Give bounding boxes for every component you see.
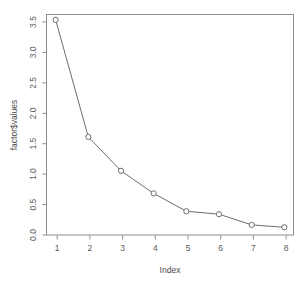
y-tick-label-1: 0.5: [28, 198, 38, 210]
y-tick-label-5: 2.5: [28, 77, 38, 89]
plot-background: [0, 0, 303, 286]
x-tick-label-1: 2: [88, 243, 93, 253]
x-tick-label-4: 5: [186, 243, 191, 253]
x-tick-label-3: 4: [153, 243, 158, 253]
plot-canvas: 0.0 0.5 1.0 1.5 2.0 2.5 3.0 3.5 factor$v…: [0, 0, 303, 286]
y-tick-label-0: 0.0: [28, 229, 38, 241]
data-point: [282, 225, 287, 230]
y-tick-label-4: 2.0: [28, 107, 38, 119]
x-axis-title: Index: [160, 265, 182, 275]
scree-plot-figure: 0.0 0.5 1.0 1.5 2.0 2.5 3.0 3.5 factor$v…: [0, 0, 303, 286]
y-tick-label-7: 3.5: [28, 16, 38, 28]
x-tick-label-5: 6: [218, 243, 223, 253]
y-tick-label-2: 1.0: [28, 168, 38, 180]
x-tick-label-6: 7: [251, 243, 256, 253]
data-point: [216, 212, 221, 217]
x-tick-label-0: 1: [55, 243, 60, 253]
x-tick-label-2: 3: [120, 243, 125, 253]
data-point: [86, 134, 91, 139]
data-point: [184, 209, 189, 214]
data-point: [151, 191, 156, 196]
data-point: [249, 222, 254, 227]
x-tick-label-7: 8: [284, 243, 289, 253]
y-tick-label-6: 3.0: [28, 46, 38, 58]
y-axis-title: factor$values: [9, 100, 19, 151]
data-point: [118, 168, 123, 173]
y-tick-label-3: 1.5: [28, 138, 38, 150]
data-point: [53, 17, 58, 22]
